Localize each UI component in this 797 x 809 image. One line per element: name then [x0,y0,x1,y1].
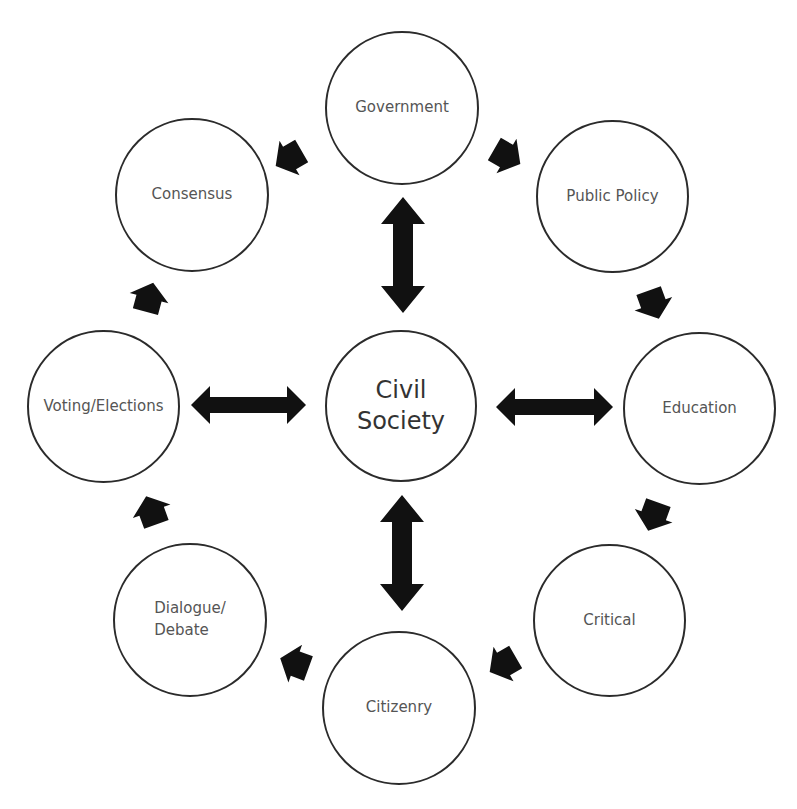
arrow-government-to-public-policy-icon [484,132,530,182]
debate-label-line2: Debate [154,620,226,642]
double-arrow-up-icon [381,197,425,313]
node-education: Education [623,332,776,485]
civil-society-label-line1: Civil [357,375,445,406]
node-public-policy: Public Policy [536,120,689,273]
arrow-education-to-critical-icon [629,496,677,538]
node-government: Government [325,31,479,185]
civil-society-diagram: Civil Society Government Public Policy E… [0,0,797,809]
public-policy-label: Public Policy [566,186,658,208]
node-voting-elections: Voting/Elections [27,330,180,483]
consensus-label: Consensus [152,184,233,206]
arrow-critical-to-citizenry-icon [480,640,526,690]
civil-society-label: Civil Society [357,375,445,437]
arrow-public-policy-to-education-icon [630,284,678,326]
education-label: Education [662,398,737,420]
civil-society-label-line2: Society [357,406,445,437]
node-consensus: Consensus [115,118,269,272]
double-arrow-down-icon [380,495,424,611]
voting-elections-label: Voting/Elections [43,396,163,418]
arrow-consensus-to-government-icon [266,134,312,184]
citizenry-label: Citizenry [366,697,432,719]
node-citizenry: Citizenry [322,631,476,785]
double-arrow-left-icon [191,386,306,424]
government-label: Government [355,97,449,119]
node-dialogue-debate: Dialogue/ Debate [113,543,267,697]
dialogue-debate-label: Dialogue/ Debate [154,598,226,642]
arrow-citizenry-to-dialogue-icon [273,639,315,687]
node-civil-society: Civil Society [325,330,477,482]
arrow-voting-to-consensus-icon [126,278,172,317]
arrow-dialogue-to-voting-icon [127,489,175,531]
dialogue-label-line1: Dialogue/ [154,598,226,620]
node-critical: Critical [533,544,686,697]
double-arrow-right-icon [496,388,613,426]
critical-label: Critical [583,610,635,632]
